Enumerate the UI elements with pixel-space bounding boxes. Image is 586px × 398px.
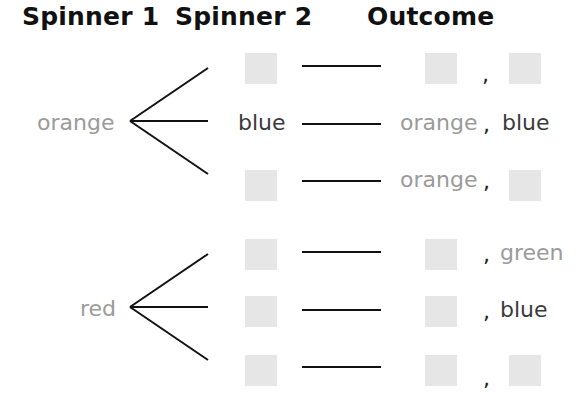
outcome-comma: , — [483, 299, 490, 324]
outcome-comma: , — [483, 169, 490, 194]
tree-lines — [0, 0, 586, 398]
spinner1-red: red — [80, 296, 116, 322]
outcome-blank-box[interactable] — [425, 355, 457, 386]
outcome-comma: , — [483, 366, 490, 391]
outcome-blank-box[interactable] — [509, 170, 541, 201]
outcome-blank-box[interactable] — [509, 355, 541, 386]
spinner1-orange: orange — [37, 110, 114, 136]
spinner2-blank-box[interactable] — [245, 170, 277, 201]
spinner2-blue: blue — [238, 110, 286, 136]
outcome-first-orange: orange — [400, 110, 477, 136]
outcome-second-blue: blue — [500, 297, 548, 323]
outcome-comma: , — [483, 242, 490, 267]
spinner2-blank-box[interactable] — [245, 239, 277, 270]
outcome-comma: , — [482, 62, 489, 87]
spinner2-blank-box[interactable] — [245, 355, 277, 386]
spinner2-blank-box[interactable] — [245, 296, 277, 327]
outcome-first-orange: orange — [400, 167, 477, 193]
outcome-comma: , — [483, 112, 490, 137]
outcome-blank-box[interactable] — [509, 53, 541, 84]
outcome-second-blue: blue — [502, 110, 550, 136]
outcome-blank-box[interactable] — [425, 296, 457, 327]
spinner2-blank-box[interactable] — [245, 53, 277, 84]
outcome-blank-box[interactable] — [425, 239, 457, 270]
outcome-second-green: green — [500, 240, 564, 266]
outcome-blank-box[interactable] — [425, 53, 457, 84]
